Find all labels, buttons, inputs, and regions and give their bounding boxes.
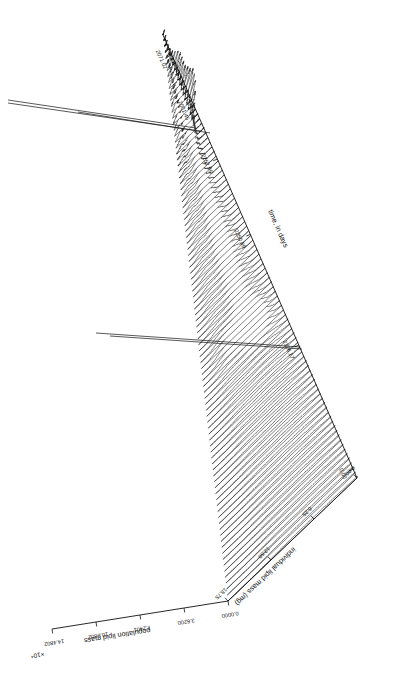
ridge-line — [163, 30, 165, 35]
pop-axis-tick-label: 14.4802 — [44, 638, 65, 647]
waterfall-plot: 0.002126.172250.892252.952001.452071.02 … — [0, 0, 417, 685]
pop-axis-tick — [184, 608, 185, 612]
axis-exponent-population-lipid-mass: ×10⁴ — [30, 651, 45, 660]
axis-title-population-lipid-mass: population lipid mass — [83, 626, 151, 645]
pop-axis-tick — [228, 601, 229, 605]
time-axis-tick — [246, 234, 250, 236]
mass-axis-tick — [268, 557, 271, 560]
pop-axis-tick — [96, 622, 97, 626]
pop-axis-tick — [140, 615, 141, 619]
ridge-surface — [163, 30, 358, 601]
pop-axis-tick-label: 3.6200 — [177, 618, 195, 627]
axis-population-lipid-mass: 0.00003.62007.240110.860214.4802 populat… — [30, 601, 239, 660]
pop-axis-tick — [52, 629, 53, 633]
pop-axis-tick-label: 0.0000 — [221, 611, 239, 620]
time-axis-tick-label: 2071.02 — [155, 49, 169, 70]
axis-title-time: time, in days — [266, 208, 291, 249]
mass-axis-tick — [225, 598, 228, 601]
ridge-line — [227, 467, 354, 589]
ridge-line — [226, 463, 351, 584]
time-axis-tick — [213, 159, 217, 161]
figure-canvas: 0.002126.172250.892252.952001.452071.02 … — [0, 0, 417, 685]
